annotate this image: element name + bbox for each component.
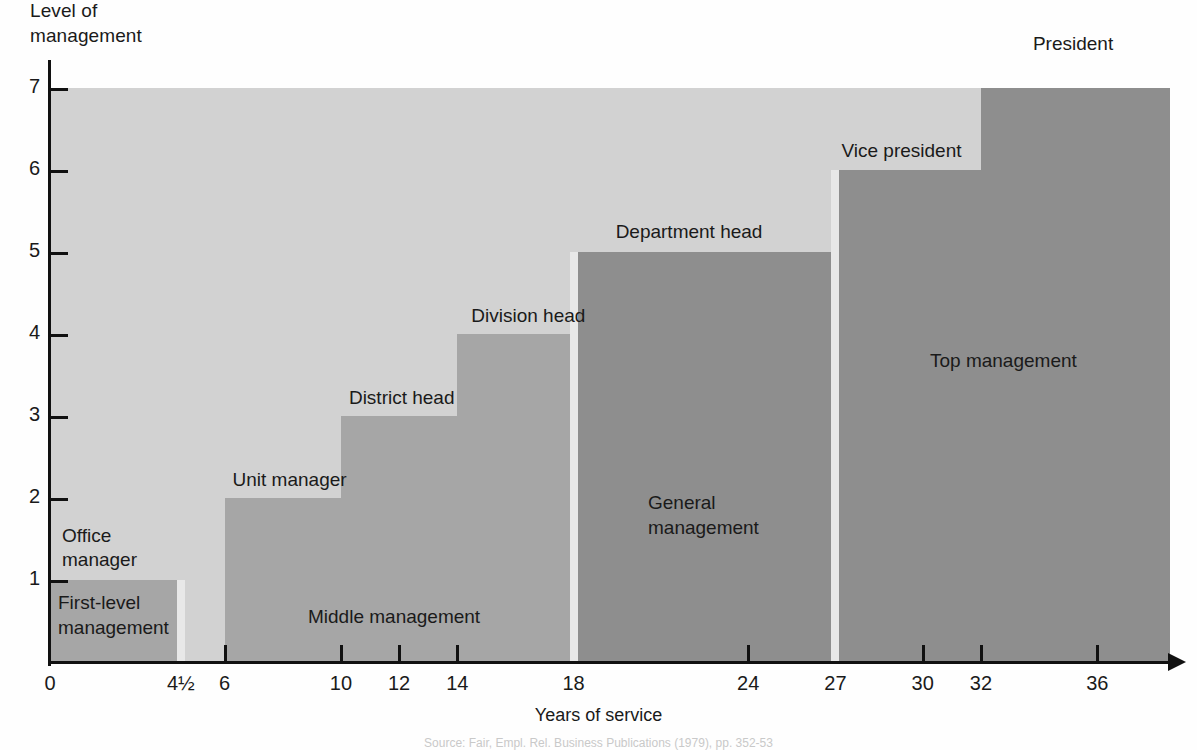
tier-separator (177, 580, 185, 662)
x-tick-label: 10 (330, 672, 352, 695)
step-bar (225, 498, 341, 662)
tier-separator (831, 170, 839, 662)
x-tick (224, 645, 227, 662)
y-tick (51, 498, 68, 501)
x-tick-label: 6 (219, 672, 230, 695)
y-tick (51, 170, 68, 173)
tier-label: First-level management (58, 590, 169, 640)
x-tick-label: 36 (1086, 672, 1108, 695)
step-bar (981, 88, 1170, 662)
y-tick-label: 3 (16, 403, 40, 426)
x-tick-label: 18 (563, 672, 585, 695)
y-tick-label: 4 (16, 321, 40, 344)
tier-label: General management (648, 490, 759, 540)
x-tick (1096, 645, 1099, 662)
step-label: President (1033, 32, 1113, 56)
step-label: Office manager (62, 524, 137, 572)
step-label: Vice president (841, 139, 961, 163)
step-label: Unit manager (233, 468, 347, 492)
x-tick-label: 24 (737, 672, 759, 695)
x-tick-label: 12 (388, 672, 410, 695)
y-tick (51, 580, 68, 583)
figure-caption: Source: Fair, Empl. Rel. Business Public… (0, 736, 1197, 750)
x-tick-label: 30 (912, 672, 934, 695)
x-axis-line (48, 661, 1170, 664)
tier-label: Top management (930, 348, 1077, 373)
y-tick-label: 7 (16, 75, 40, 98)
x-axis-arrow-icon (1168, 653, 1186, 671)
y-tick (51, 88, 68, 91)
y-axis-line (48, 60, 51, 666)
x-tick (398, 645, 401, 662)
y-tick (51, 252, 68, 255)
x-tick (922, 645, 925, 662)
x-tick (747, 645, 750, 662)
y-tick-label: 2 (16, 485, 40, 508)
step-label: District head (349, 386, 455, 410)
y-tick-label: 1 (16, 567, 40, 590)
x-axis-title: Years of service (0, 705, 1197, 726)
tier-label: Middle management (308, 604, 480, 629)
x-tick-label: 14 (446, 672, 468, 695)
x-tick-label: 32 (970, 672, 992, 695)
step-label: Department head (616, 220, 763, 244)
x-tick (456, 645, 459, 662)
x-tick-label: 4½ (167, 672, 195, 695)
y-tick-label: 6 (16, 157, 40, 180)
y-tick (51, 334, 68, 337)
x-tick (980, 645, 983, 662)
step-bar (574, 252, 836, 662)
x-tick-label: 0 (44, 672, 55, 695)
x-tick (340, 645, 343, 662)
step-label: Division head (471, 304, 585, 328)
plot-area: Office managerUnit managerDistrict headD… (50, 84, 1170, 662)
y-tick (51, 416, 68, 419)
x-tick-label: 27 (824, 672, 846, 695)
y-tick-label: 5 (16, 239, 40, 262)
step-bar (835, 170, 980, 662)
y-axis-title: Level of management (30, 0, 142, 48)
